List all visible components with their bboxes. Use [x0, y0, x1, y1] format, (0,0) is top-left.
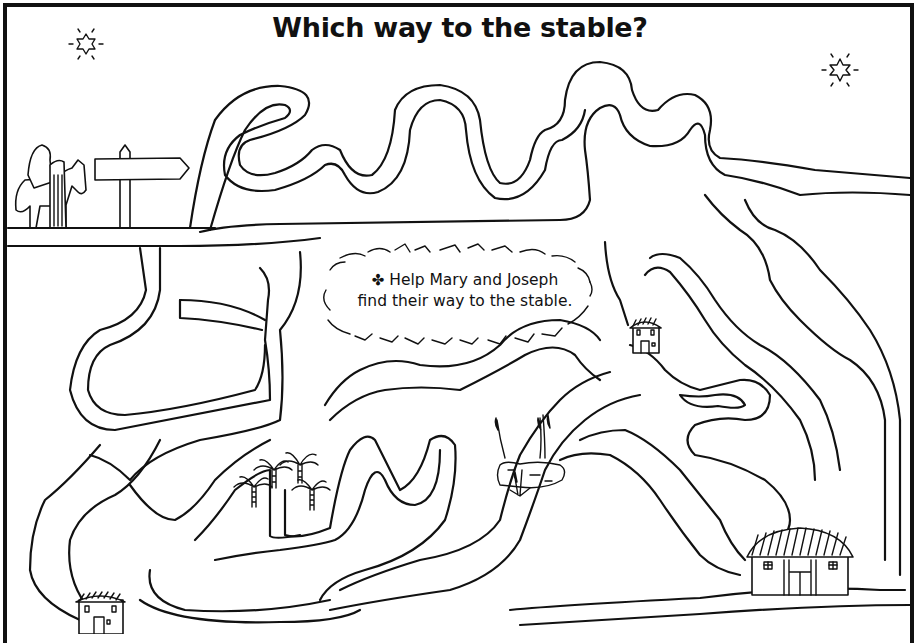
star-icon-right: [822, 54, 858, 86]
star-icon-left: [69, 29, 103, 59]
instructions-line-1: ✤ Help Mary and Joseph: [340, 270, 590, 291]
signpost-icon: [95, 145, 189, 228]
small-house-bottom-left-icon: [76, 592, 125, 634]
small-house-center-right-icon: [630, 318, 661, 353]
mary-joseph-donkey-icon: [16, 145, 86, 228]
stable-icon: [747, 528, 853, 595]
instructions-line-1-text: Help Mary and Joseph: [389, 271, 558, 289]
maze-wall: [190, 62, 910, 228]
instructions-line-2: find their way to the stable.: [340, 291, 590, 312]
clover-bullet-icon: ✤: [372, 271, 385, 289]
instructions-text: ✤ Help Mary and Joseph find their way to…: [340, 270, 590, 312]
palm-trees-icon: [234, 453, 330, 510]
